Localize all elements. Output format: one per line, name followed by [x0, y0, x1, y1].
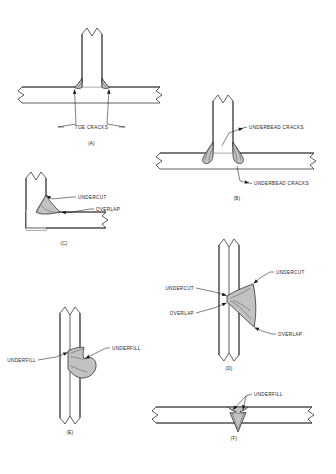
panel-c: UNDERCUT OVERLAP (C)	[26, 172, 120, 246]
panel-e-letter: (E)	[67, 430, 74, 435]
panel-b: UNDERBEAD CRACKS UNDERBEAD CRACKS (B)	[156, 95, 316, 201]
panel-d-leader-undercut-right	[254, 272, 270, 283]
panel-c-leader-undercut	[47, 196, 72, 199]
panel-a-vertical-plate	[82, 28, 102, 87]
panel-c-label-undercut: UNDERCUT	[78, 195, 107, 200]
panel-f-letter: (F)	[231, 436, 238, 441]
panel-a: TOE CRACKS (A)	[18, 28, 162, 146]
panel-d-label-overlap-left: OVERLAP	[170, 311, 194, 316]
panel-b-letter: (B)	[234, 196, 241, 201]
panel-f-leader-tail	[246, 394, 252, 396]
panel-e-bead	[68, 347, 96, 378]
panel-d: UNDERCUT OVERLAP UNDERCUT OVERLAP (D)	[165, 239, 304, 371]
panel-d-label-overlap-right: OVERLAP	[278, 332, 302, 337]
panel-d-leader-overlap-right	[255, 328, 272, 334]
panel-c-letter: (C)	[61, 241, 68, 246]
figure-canvas: TOE CRACKS (A) UNDERBEAD CRACKS UNDERBEA…	[0, 0, 336, 474]
panel-b-leader-top-tail	[243, 127, 247, 128]
weld-discontinuities-figure: TOE CRACKS (A) UNDERBEAD CRACKS UNDERBEA…	[0, 0, 336, 474]
panel-b-vertical-plate	[213, 95, 233, 153]
panel-e: UNDERFILL UNDERFILL (E)	[7, 307, 140, 435]
panel-c-label-overlap: OVERLAP	[96, 207, 120, 212]
panel-b-label-underbead-top: UNDERBEAD CRACKS	[249, 125, 304, 130]
panel-a-letter: (A)	[88, 141, 95, 146]
panel-a-label-toe-cracks: TOE CRACKS	[75, 125, 108, 130]
panel-f: UNDERFILL (F)	[152, 392, 314, 441]
panel-f-label-underfill: UNDERFILL	[254, 392, 283, 397]
panel-e-label-underfill-left: UNDERFILL	[7, 358, 36, 363]
panel-b-leader-bottom-tail	[249, 183, 252, 184]
panel-d-letter: (D)	[226, 366, 233, 371]
panel-d-label-undercut-left: UNDERCUT	[165, 286, 194, 291]
panel-b-label-underbead-bottom: UNDERBEAD CRACKS	[254, 181, 309, 186]
panel-e-label-underfill-right: UNDERFILL	[112, 346, 141, 351]
panel-d-label-undercut-right: UNDERCUT	[276, 270, 305, 275]
panel-e-leader-underfill-right	[85, 348, 106, 358]
panel-a-base-plate	[18, 87, 162, 103]
